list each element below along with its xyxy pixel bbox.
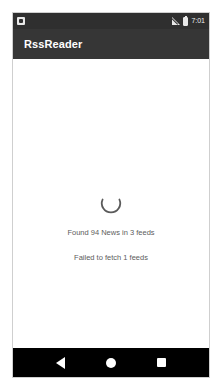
loading-spinner-arc (99, 192, 123, 216)
failed-fetch-message: Failed to fetch 1 feeds (13, 252, 209, 264)
status-bar-right: 7:01 (171, 17, 205, 26)
found-news-message: Found 94 News in 3 feeds (13, 227, 209, 239)
nav-back-button[interactable] (47, 353, 73, 373)
home-circle-icon (106, 358, 116, 368)
nav-recents-button[interactable] (149, 353, 175, 373)
status-bar-clock: 7:01 (191, 17, 205, 25)
signal-no-sim-icon (171, 17, 180, 25)
battery-icon (183, 17, 188, 26)
back-triangle-icon (56, 357, 65, 369)
nav-home-button[interactable] (98, 353, 124, 373)
app-bar: RssReader (13, 29, 209, 59)
main-content: Found 94 News in 3 feeds Failed to fetch… (13, 59, 209, 348)
loading-indicator (13, 192, 209, 216)
device-screen: 7:01 RssReader Found 94 News in 3 feeds … (12, 12, 210, 378)
notification-square-icon (17, 17, 25, 25)
app-title: RssReader (24, 38, 82, 50)
status-bar-left (17, 17, 25, 25)
status-bar: 7:01 (13, 13, 209, 29)
status-messages: Found 94 News in 3 feeds Failed to fetch… (13, 227, 209, 264)
navigation-bar (13, 348, 209, 377)
recents-square-icon (157, 358, 166, 367)
